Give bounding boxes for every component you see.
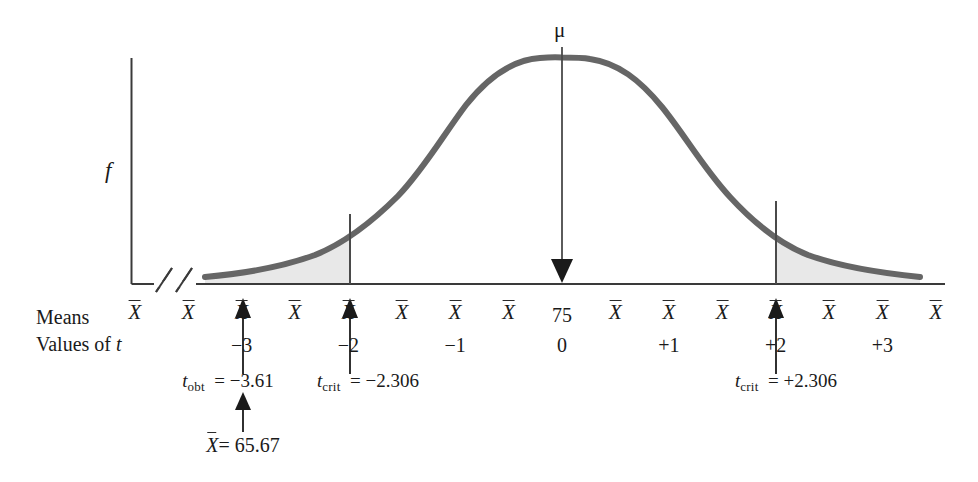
mean-symbol: X (395, 300, 408, 323)
axis-break-icon (156, 268, 192, 292)
t-italic-glyph: t (116, 333, 122, 355)
mu-arrowhead-icon (551, 259, 573, 283)
mean-symbol: X (876, 300, 889, 323)
mean-symbol: X (609, 300, 622, 323)
distribution-figure (0, 0, 978, 482)
sample-mean-arrowhead-icon (235, 392, 251, 410)
values-of-t-text: Values of (36, 333, 116, 355)
mean-symbol: X (182, 300, 195, 323)
sample-mean-symbol: X (206, 432, 218, 457)
lower-rejection-region (205, 58, 562, 285)
mean-symbol: X (235, 300, 248, 323)
figure-container: f μ Means Values of t XXXXXXXX75XXXXXXXX… (0, 0, 978, 482)
t-value-label: +2 (765, 334, 786, 357)
t-crit-right-subscript: crit (740, 379, 758, 394)
t-value-label: −1 (445, 334, 466, 357)
t-crit-left-annotation: tcrit = −2.306 (317, 370, 419, 395)
t-obt-value: = −3.61 (210, 370, 274, 391)
y-axis-label: f (105, 158, 111, 184)
mean-symbol: X (769, 300, 782, 323)
mean-symbol: X (502, 300, 515, 323)
t-crit-right-value: = +2.306 (763, 370, 837, 391)
means-row-label: Means (36, 307, 89, 327)
t-obt-subscript: obt (188, 379, 205, 394)
mean-symbol: X (289, 300, 302, 323)
t-obt-annotation: tobt = −3.61 (182, 370, 273, 395)
mean-symbol: X (449, 300, 462, 323)
mean-symbol: X (128, 300, 141, 323)
mean-symbol: X (929, 300, 942, 323)
t-crit-left-subscript: crit (322, 379, 340, 394)
t-value-label: +3 (872, 334, 893, 357)
mu-label: μ (554, 18, 565, 43)
sample-mean-annotation: X= 65.67 (206, 432, 280, 457)
sample-mean-value: = 65.67 (218, 434, 279, 456)
values-of-t-row-label: Values of t (36, 334, 122, 354)
t-value-label: 0 (557, 334, 567, 357)
t-crit-left-value: = −2.306 (345, 370, 419, 391)
upper-rejection-region (562, 58, 920, 285)
t-value-label: −2 (338, 334, 359, 357)
t-value-label: −3 (231, 334, 252, 357)
mean-symbol: X (662, 300, 675, 323)
t-crit-right-annotation: tcrit = +2.306 (735, 370, 837, 395)
t-value-label: +1 (658, 334, 679, 357)
center-value-label: 75 (552, 304, 572, 327)
mean-symbol: X (716, 300, 729, 323)
mean-symbol: X (823, 300, 836, 323)
mean-symbol: X (342, 300, 355, 323)
